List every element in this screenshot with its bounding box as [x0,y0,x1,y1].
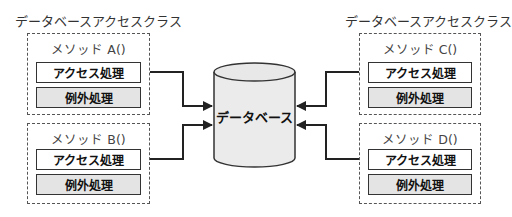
method-a-box: メソッド A() アクセス処理 例外処理 [27,33,150,115]
method-b-box: メソッド B() アクセス処理 例外処理 [27,123,150,204]
method-b-name: メソッド B() [28,129,149,148]
method-d-name: メソッド D() [360,129,480,148]
method-d-access-box: アクセス処理 [368,149,472,170]
method-a-exception-box: 例外処理 [36,87,141,108]
method-c-exception-box: 例外処理 [368,87,472,108]
method-c-access-box: アクセス処理 [368,62,472,83]
right-class-title: データベースアクセスクラス [345,11,512,30]
arrow-method-d-to-db [297,125,368,159]
database-label: データベース [214,107,295,126]
method-a-name: メソッド A() [28,39,149,58]
arrow-method-a-to-db [140,72,212,106]
method-d-box: メソッド D() アクセス処理 例外処理 [359,123,481,204]
method-c-name: メソッド C() [360,39,480,58]
method-b-access-box: アクセス処理 [36,149,141,170]
arrow-method-b-to-db [140,125,212,159]
method-d-exception-box: 例外処理 [368,174,472,195]
method-c-box: メソッド C() アクセス処理 例外処理 [359,33,481,115]
arrow-method-c-to-db [297,72,368,106]
left-class-title: データベースアクセスクラス [15,11,182,30]
method-b-exception-box: 例外処理 [36,174,141,195]
method-a-access-box: アクセス処理 [36,62,141,83]
